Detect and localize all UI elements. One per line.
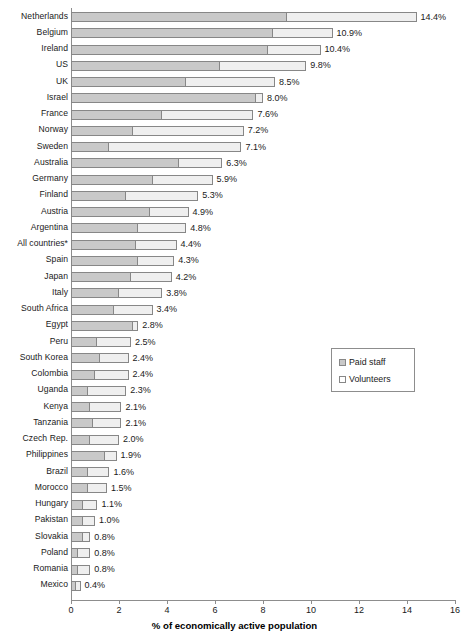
category-label: Sweden: [0, 142, 68, 151]
category-label: Colombia: [0, 369, 68, 378]
x-axis-tick-label: 16: [450, 605, 460, 616]
bar-segment-volunteers: [99, 353, 129, 363]
x-axis-title: % of economically active population: [0, 620, 469, 631]
category-label: Mexico: [0, 580, 68, 589]
category-label: Uganda: [0, 385, 68, 394]
category-label: Poland: [0, 548, 68, 557]
bar-segment-paid-staff: [71, 110, 162, 120]
bar-row: 1.5%: [71, 483, 107, 493]
bar-value-label: 0.8%: [94, 548, 115, 559]
bar-row: 2.3%: [71, 386, 126, 396]
bar-segment-volunteers: [152, 175, 213, 185]
bar-segment-volunteers: [82, 516, 95, 526]
bar-value-label: 3.8%: [166, 288, 187, 299]
bar-segment-volunteers: [219, 61, 306, 71]
bar-segment-paid-staff: [71, 483, 88, 493]
bar-segment-paid-staff: [71, 126, 133, 136]
bar-segment-paid-staff: [71, 272, 131, 282]
bar-segment-volunteers: [77, 548, 90, 558]
bar-value-label: 14.4%: [421, 12, 447, 23]
bar-segment-volunteers: [149, 207, 188, 217]
bar-row: 3.4%: [71, 305, 153, 315]
bar-value-label: 9.8%: [310, 60, 331, 71]
bar-row: 2.4%: [71, 370, 129, 380]
x-axis-tick: [167, 600, 168, 604]
bar-segment-volunteers: [125, 191, 198, 201]
bar-value-label: 3.4%: [157, 304, 178, 315]
bar-value-label: 7.1%: [245, 142, 266, 153]
x-axis-tick-label: 10: [306, 605, 316, 616]
category-label: Czech Rep.: [0, 434, 68, 443]
bar-segment-volunteers: [185, 77, 275, 87]
bar-value-label: 0.8%: [94, 532, 115, 543]
bar-segment-volunteers: [92, 418, 122, 428]
bar-segment-volunteers: [87, 483, 107, 493]
category-label: Italy: [0, 288, 68, 297]
bar-segment-volunteers: [267, 45, 321, 55]
bar-row: 4.2%: [71, 272, 172, 282]
bar-segment-paid-staff: [71, 305, 114, 315]
bar-value-label: 2.4%: [133, 369, 154, 380]
bar-segment-volunteers: [132, 126, 243, 136]
bar-value-label: 2.1%: [125, 418, 146, 429]
bar-segment-volunteers: [94, 370, 129, 380]
bar-segment-paid-staff: [71, 288, 119, 298]
x-axis-tick: [263, 600, 264, 604]
bar-row: 5.3%: [71, 191, 198, 201]
legend-item-volunteers: Volunteers: [339, 374, 391, 384]
bar-value-label: 5.3%: [202, 190, 223, 201]
bar-segment-volunteers: [118, 288, 162, 298]
bar-segment-paid-staff: [71, 370, 95, 380]
bar-segment-paid-staff: [71, 61, 220, 71]
category-label: Morocco: [0, 483, 68, 492]
bar-row: 7.6%: [71, 110, 253, 120]
bar-value-label: 2.1%: [125, 402, 146, 413]
category-label: Australia: [0, 158, 68, 167]
bar-value-label: 2.4%: [133, 353, 154, 364]
bar-value-label: 7.2%: [248, 125, 269, 136]
bar-segment-paid-staff: [71, 353, 100, 363]
bar-segment-paid-staff: [71, 256, 138, 266]
legend-label-paid: Paid staff: [349, 357, 386, 367]
bar-segment-volunteers: [161, 110, 253, 120]
category-label: Japan: [0, 272, 68, 281]
bar-row: 2.1%: [71, 418, 121, 428]
bar-segment-paid-staff: [71, 142, 109, 152]
bar-row: 7.2%: [71, 126, 244, 136]
x-axis-tick-label: 14: [402, 605, 412, 616]
bar-value-label: 6.3%: [226, 158, 247, 169]
x-axis-tick: [71, 600, 72, 604]
category-label: Spain: [0, 255, 68, 264]
bar-segment-paid-staff: [71, 337, 97, 347]
x-axis-tick: [215, 600, 216, 604]
bar-segment-volunteers: [137, 223, 186, 233]
bar-segment-paid-staff: [71, 45, 268, 55]
bar-row: 2.1%: [71, 402, 121, 412]
bar-segment-paid-staff: [71, 207, 150, 217]
bar-segment-paid-staff: [71, 12, 287, 22]
category-label: Finland: [0, 190, 68, 199]
bar-segment-volunteers: [272, 28, 333, 38]
category-label: Germany: [0, 174, 68, 183]
bar-segment-volunteers: [77, 565, 90, 575]
bar-segment-paid-staff: [71, 77, 186, 87]
category-label: Brazil: [0, 467, 68, 476]
bar-row: 0.8%: [71, 548, 90, 558]
bar-row: 1.1%: [71, 500, 97, 510]
bar-row: 3.8%: [71, 288, 162, 298]
bar-segment-paid-staff: [71, 467, 88, 477]
bar-row: 2.8%: [71, 321, 138, 331]
x-axis-tick-label: 4: [164, 605, 169, 616]
bar-segment-paid-staff: [71, 435, 90, 445]
bar-row: 4.3%: [71, 256, 174, 266]
category-label: Austria: [0, 207, 68, 216]
plot-area: 14.4%10.9%10.4%9.8%8.5%8.0%7.6%7.2%7.1%6…: [71, 0, 455, 600]
bar-value-label: 1.9%: [121, 450, 142, 461]
bar-segment-volunteers: [87, 467, 110, 477]
bar-value-label: 7.6%: [257, 109, 278, 120]
bar-row: 0.8%: [71, 565, 90, 575]
bar-row: 4.9%: [71, 207, 189, 217]
bar-value-label: 4.3%: [178, 255, 199, 266]
bar-segment-volunteers: [137, 256, 174, 266]
bar-row: 10.9%: [71, 28, 333, 38]
